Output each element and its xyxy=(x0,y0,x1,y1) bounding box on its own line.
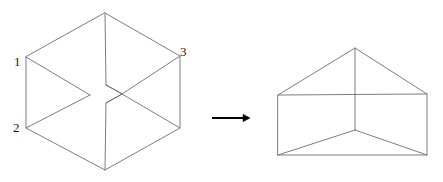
cube-edge-lowerleft-center xyxy=(26,95,90,128)
cube-edge-upperright-center xyxy=(122,56,180,94)
vertex-label-3: 3 xyxy=(180,45,187,58)
cube-center-diamond xyxy=(106,85,122,103)
figure-canvas: 1 2 3 xyxy=(0,0,443,182)
prism-lower-right-edge xyxy=(355,130,427,155)
vertex-label-1: 1 xyxy=(14,55,21,68)
prism-outline xyxy=(278,48,427,155)
cube-edge-upperleft-center xyxy=(26,57,90,95)
cube-edge-top-center xyxy=(105,13,106,85)
cube-edge-lowerright-center xyxy=(122,94,180,128)
prism-front-top-edge xyxy=(278,94,427,95)
arrow-head xyxy=(243,114,250,121)
cube-edge-bottom-center xyxy=(105,103,106,170)
wedge-prism-figure xyxy=(278,48,427,155)
prism-lower-left-edge xyxy=(278,130,355,155)
cube-outer-hexagon xyxy=(26,13,180,170)
necker-cube-figure xyxy=(26,13,180,170)
rightwards-arrow xyxy=(212,114,250,121)
vertex-label-2: 2 xyxy=(13,121,20,134)
figure-svg xyxy=(0,0,443,182)
